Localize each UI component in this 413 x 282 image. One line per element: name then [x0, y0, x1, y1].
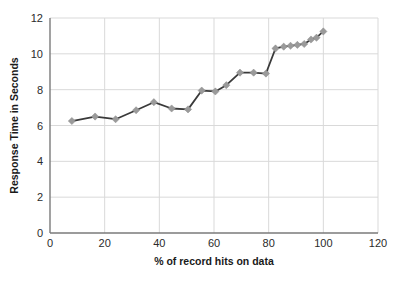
y-tick-label: 4 [37, 155, 43, 167]
x-axis-title: % of record hits on data [154, 255, 274, 267]
data-point-marker [250, 69, 257, 76]
data-point-marker [212, 88, 219, 95]
line-chart: 020406080100120 024681012 % of record hi… [0, 0, 413, 282]
x-tick-label: 20 [99, 237, 111, 249]
y-axis-title: Response Time in Seconds [8, 57, 20, 194]
data-point-marker [272, 45, 279, 52]
y-tick-label: 0 [37, 227, 43, 239]
data-point-marker [68, 117, 75, 124]
chart-container: 020406080100120 024681012 % of record hi… [0, 0, 413, 282]
y-tick-label: 8 [37, 84, 43, 96]
data-series [68, 28, 327, 125]
x-tick-label: 40 [153, 237, 165, 249]
y-tick-label: 12 [31, 12, 43, 24]
y-tick-label: 2 [37, 191, 43, 203]
data-point-marker [280, 43, 287, 50]
x-tick-label: 60 [208, 237, 220, 249]
data-point-marker [112, 116, 119, 123]
x-axis-tick-labels: 020406080100120 [47, 237, 387, 249]
y-tick-label: 10 [31, 48, 43, 60]
data-point-marker [294, 41, 301, 48]
data-point-marker [133, 107, 140, 114]
y-axis-tick-labels: 024681012 [31, 12, 43, 239]
x-tick-label: 80 [263, 237, 275, 249]
gridlines [50, 18, 378, 233]
x-tick-label: 0 [47, 237, 53, 249]
x-tick-label: 120 [369, 237, 387, 249]
data-point-marker [287, 42, 294, 49]
y-tick-label: 6 [37, 120, 43, 132]
data-point-marker [168, 105, 175, 112]
x-tick-label: 100 [314, 237, 332, 249]
data-point-marker [92, 113, 99, 120]
data-point-marker [150, 99, 157, 106]
